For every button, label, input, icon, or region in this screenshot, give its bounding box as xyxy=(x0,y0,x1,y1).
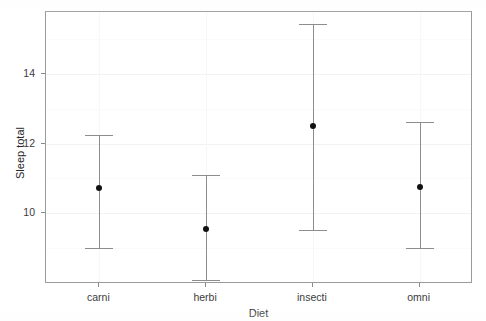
error-bar-cap-lower-herbi xyxy=(192,280,220,281)
data-point-insecti xyxy=(310,123,316,129)
gridline-horizontal xyxy=(46,213,471,214)
x-tick-mark xyxy=(205,283,206,287)
y-tick-mark xyxy=(41,73,45,74)
error-bar-cap-lower-carni xyxy=(85,248,113,249)
errorbar-chart: Sleep total 101214 carniherbiinsectiomni… xyxy=(0,0,486,321)
y-tick-label: 10 xyxy=(5,207,35,218)
data-point-carni xyxy=(96,185,102,191)
y-tick-label: 14 xyxy=(5,68,35,79)
error-bar-cap-upper-carni xyxy=(85,135,113,136)
x-tick-label-insecti: insecti xyxy=(267,292,357,303)
error-bar-line-carni xyxy=(99,135,100,248)
y-tick-label: 12 xyxy=(5,138,35,149)
y-tick-mark xyxy=(41,212,45,213)
x-tick-mark xyxy=(419,283,420,287)
gridline-horizontal xyxy=(46,144,471,145)
plot-panel xyxy=(45,11,472,283)
error-bar-cap-lower-omni xyxy=(406,248,434,249)
x-axis-title: Diet xyxy=(199,307,319,319)
gridline-horizontal-minor xyxy=(46,109,471,110)
gridline-horizontal-minor xyxy=(46,178,471,179)
data-point-herbi xyxy=(203,226,209,232)
data-point-omni xyxy=(417,184,423,190)
x-tick-mark xyxy=(98,283,99,287)
y-axis-title: Sleep total xyxy=(14,127,26,179)
x-tick-label-omni: omni xyxy=(374,292,464,303)
error-bar-cap-upper-insecti xyxy=(299,24,327,25)
x-tick-label-carni: carni xyxy=(53,292,143,303)
error-bar-cap-lower-insecti xyxy=(299,230,327,231)
error-bar-cap-upper-omni xyxy=(406,122,434,123)
gridline-horizontal-minor xyxy=(46,39,471,40)
y-tick-mark xyxy=(41,143,45,144)
error-bar-cap-upper-herbi xyxy=(192,175,220,176)
x-tick-label-herbi: herbi xyxy=(160,292,250,303)
x-tick-mark xyxy=(312,283,313,287)
gridline-horizontal xyxy=(46,74,471,75)
